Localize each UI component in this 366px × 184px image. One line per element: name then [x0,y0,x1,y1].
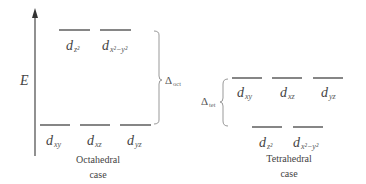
tet-caption: Tetrahedral [266,153,312,164]
oct-sub-dxy: xy [53,140,62,149]
tet-bracket [220,79,228,126]
energy-axis [32,8,38,156]
oct-upper-levels: d z² d x²−y² [59,30,131,54]
oct-label-dz2: d [66,38,74,53]
delta-oct-sub: oct [173,80,181,87]
arrow-up-icon [32,8,38,18]
tet-sub-dx2y2: x²−y² [300,142,319,151]
oct-caption: Octahedral [76,154,120,165]
oct-sub-dz2: z² [73,45,80,54]
oct-lower-levels: d xy d xz d yz [40,125,151,149]
energy-axis-label: E [19,73,29,88]
tet-caption-case: case [280,168,298,179]
tet-label-dz2: d [259,135,267,150]
delta-oct-label: Δ [165,74,172,86]
tet-lower-levels: d z² d x²−y² [252,127,323,151]
tet-sub-dxy: xy [244,92,253,101]
tet-sub-dz2: z² [266,142,273,151]
oct-sub-dyz: yz [134,140,143,149]
tet-label-dxz: d [280,85,288,100]
oct-caption-case: case [89,169,107,180]
delta-tet-sub: tet [209,101,216,108]
oct-label-dx2y2: d [102,38,110,53]
oct-sub-dxz: xz [94,140,103,149]
oct-bracket [154,31,162,124]
tet-sub-dyz: yz [328,92,337,101]
tet-label-dyz: d [321,85,329,100]
oct-label-dxy: d [46,133,54,148]
delta-tet-label: Δ [201,95,208,107]
oct-label-dxz: d [87,133,95,148]
tet-upper-levels: d xy d xz d yz [232,78,343,101]
tet-label-dx2y2: d [293,135,301,150]
tet-sub-dxz: xz [287,92,296,101]
tet-label-dxy: d [237,85,245,100]
oct-sub-dx2y2: x²−y² [109,45,128,54]
crystal-field-diagram: E d z² d x²−y² d xy d xz d yz Δ oct Octa… [0,0,366,184]
oct-label-dyz: d [127,133,135,148]
